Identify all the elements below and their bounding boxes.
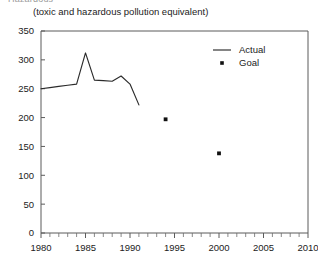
- x-tick-label: 2005: [253, 242, 274, 253]
- x-tick-label: 1990: [119, 242, 140, 253]
- x-axis: 1980198519901995200020052010: [30, 233, 318, 253]
- y-tick-label: 0: [29, 227, 34, 238]
- x-tick-label: 1980: [30, 242, 51, 253]
- plot-frame: [41, 31, 308, 233]
- chart-legend: ActualGoal: [213, 44, 265, 68]
- chart-svg: 050100150200250300350 198019851990199520…: [0, 0, 318, 264]
- goal-point: [217, 151, 221, 155]
- legend-dot-marker: [220, 61, 224, 65]
- y-tick-label: 300: [18, 54, 34, 65]
- y-tick-label: 350: [18, 25, 34, 36]
- x-tick-label: 1985: [75, 242, 96, 253]
- y-tick-label: 250: [18, 83, 34, 94]
- x-tick-label: 2000: [208, 242, 229, 253]
- chart-container: Hazardous (toxic and hazardous pollution…: [0, 0, 318, 264]
- y-tick-label: 150: [18, 141, 34, 152]
- series-line-actual: [41, 53, 139, 105]
- y-tick-label: 50: [23, 199, 34, 210]
- x-tick-label: 1995: [164, 242, 185, 253]
- y-tick-label: 100: [18, 170, 34, 181]
- x-tick-label: 2010: [297, 242, 318, 253]
- legend-label: Goal: [239, 57, 259, 68]
- y-tick-label: 200: [18, 112, 34, 123]
- data-series: [41, 53, 221, 155]
- legend-label: Actual: [239, 44, 265, 55]
- goal-point: [164, 117, 168, 121]
- plot-border: [41, 31, 308, 233]
